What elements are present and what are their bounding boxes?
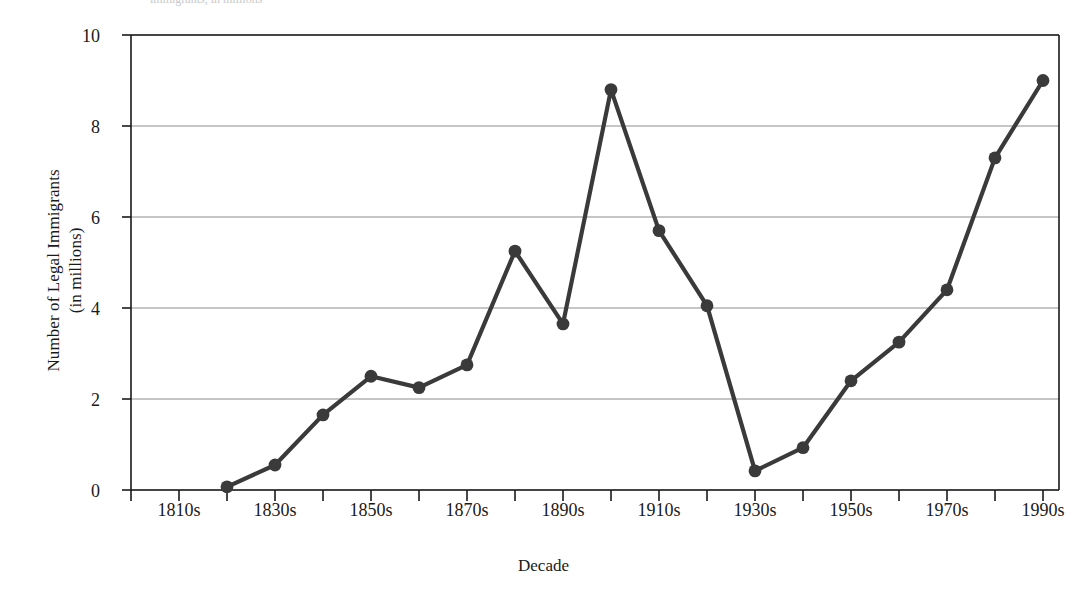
gridlines (131, 35, 1059, 490)
y-tick-marks (122, 35, 131, 490)
plot-area (0, 0, 1087, 604)
axis-frame (131, 35, 1059, 490)
data-point-markers (221, 74, 1050, 493)
x-tick-marks (131, 490, 1043, 501)
immigration-line-chart: immigrants, in millions Number of Legal … (0, 0, 1087, 604)
data-line (227, 81, 1043, 487)
